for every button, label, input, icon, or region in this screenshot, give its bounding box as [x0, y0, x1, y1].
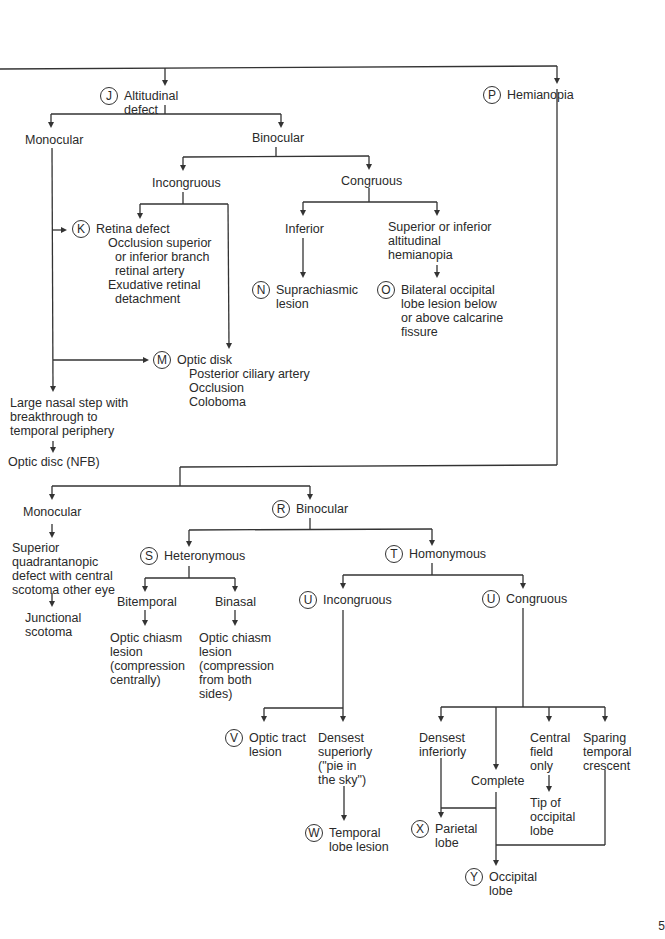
node-homonymous: THomonymous: [385, 547, 486, 563]
node-alt-congruous: Congruous: [341, 174, 402, 188]
node-bitemporal: Bitemporal: [117, 595, 177, 609]
badge-u-congruous: U: [482, 590, 500, 608]
badge-x: X: [411, 820, 429, 838]
node-retina-defect: KRetina defectOcclusion superior or infe…: [72, 222, 212, 306]
node-heteronymous: SHeteronymous: [140, 549, 245, 565]
badge-p: P: [483, 86, 501, 104]
node-altitudinal-defect: JAltitudinal defect: [100, 89, 178, 117]
node-hem-monocular: Monocular: [23, 505, 81, 519]
node-suprachiasmic-lesion: NSuprachiasmic lesion: [252, 283, 358, 311]
badge-y: Y: [465, 868, 483, 886]
node-hom-congruous: UCongruous: [482, 592, 567, 608]
node-junctional-scotoma: Junctional scotoma: [25, 611, 81, 639]
page-number: 5: [658, 919, 665, 933]
badge-m: M: [153, 351, 171, 369]
node-inferior: Inferior: [285, 222, 324, 236]
node-hom-incongruous: UIncongruous: [299, 593, 392, 609]
badge-k: K: [72, 220, 90, 238]
node-superior-quadrantanopic: Superior quadrantanopic defect with cent…: [12, 541, 115, 597]
node-alt-binocular: Binocular: [252, 131, 304, 145]
badge-t: T: [385, 545, 403, 563]
node-central-field-only: Central field only: [530, 731, 570, 773]
badge-v: V: [225, 729, 243, 747]
node-alt-incongruous: Incongruous: [152, 176, 221, 190]
badge-j: J: [100, 87, 118, 105]
badge-u-incongruous: U: [299, 591, 317, 609]
node-bilateral-occipital: OBilateral occipital lobe lesion below o…: [377, 283, 503, 339]
node-hem-binocular: RBinocular: [272, 502, 348, 518]
node-densest-superiorly: Densest superiorly ("pie in the sky"): [318, 731, 372, 787]
node-sparing-temporal-crescent: Sparing temporal crescent: [583, 731, 632, 773]
badge-s: S: [140, 547, 158, 565]
node-optic-disk: MOptic diskPosterior ciliary arteryOcclu…: [153, 353, 310, 409]
badge-w: W: [305, 824, 323, 842]
node-tip-occipital-lobe: Tip of occipital lobe: [530, 796, 575, 838]
node-hemianopia: PHemianopia: [483, 88, 574, 104]
node-occipital-lobe: YOccipital lobe: [465, 870, 537, 898]
node-optic-tract-lesion: VOptic tract lesion: [225, 731, 306, 759]
node-complete: Complete: [471, 774, 525, 788]
node-alt-monocular: Monocular: [25, 133, 83, 147]
node-optic-disc-nfb: Optic disc (NFB): [8, 455, 100, 469]
node-parietal-lobe: XParietal lobe: [411, 822, 477, 850]
badge-r: R: [272, 500, 290, 518]
node-chiasm-central: Optic chiasm lesion (compression central…: [110, 631, 185, 687]
node-temporal-lobe-lesion: WTemporal lobe lesion: [305, 826, 389, 854]
badge-o: O: [377, 281, 395, 299]
node-sup-inf-altitudinal: Superior or inferior altitudinal hemiano…: [388, 220, 492, 262]
node-binasal: Binasal: [215, 595, 256, 609]
node-densest-inferiorly: Densest inferiorly: [419, 731, 466, 759]
badge-n: N: [252, 281, 270, 299]
node-large-nasal-step: Large nasal step with breakthrough to te…: [10, 396, 128, 438]
node-chiasm-sides: Optic chiasm lesion (compression from bo…: [199, 631, 274, 701]
